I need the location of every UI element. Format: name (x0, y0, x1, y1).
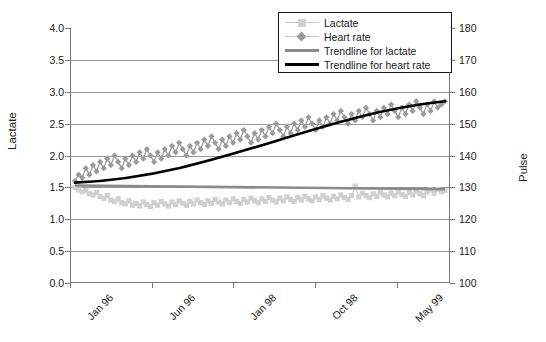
heart-rate-marker (144, 146, 150, 152)
y-axis-left-tick-label: 1.0 (30, 214, 64, 225)
heart-rate-marker (248, 140, 254, 146)
heart-rate-marker (266, 124, 272, 130)
chart-legend: Lactate Heart rate Trendline for lactate… (278, 12, 452, 73)
heart-rate-marker (377, 114, 383, 120)
heart-rate-marker (129, 152, 135, 158)
heart-rate-marker (244, 133, 250, 139)
heart-rate-marker (187, 143, 193, 149)
heart-rate-marker (298, 117, 304, 123)
heart-rate-marker (363, 105, 369, 111)
y-axis-left-tick-label: 3.0 (30, 87, 64, 98)
y-axis-right-tick-label: 110 (459, 246, 493, 257)
heart-rate-marker (388, 101, 394, 107)
heart-rate-marker (395, 114, 401, 120)
legend-item-trendline-lactate: Trendline for lactate (285, 44, 447, 58)
x-axis-tick-mark (397, 283, 398, 288)
heart-rate-marker (126, 162, 132, 168)
heart-rate-marker (309, 121, 315, 127)
y-axis-left-tick-label: 4.0 (30, 23, 64, 34)
y-axis-right-tick-label: 160 (459, 87, 493, 98)
x-axis-tick-label: May 99 (413, 292, 445, 324)
heart-rate-marker (190, 149, 196, 155)
heart-rate-marker (151, 159, 157, 165)
y-axis-right-tick-mark (450, 283, 455, 284)
heart-rate-marker (208, 133, 214, 139)
heart-rate-marker (219, 136, 225, 142)
heart-rate-marker (101, 165, 107, 171)
square-marker-key (285, 17, 319, 29)
heart-rate-marker (428, 108, 434, 114)
heart-rate-marker (147, 152, 153, 158)
heart-rate-marker (252, 130, 258, 136)
heart-rate-marker (269, 130, 275, 136)
legend-label: Lactate (324, 18, 358, 29)
heart-rate-marker (133, 159, 139, 165)
heart-rate-marker (93, 168, 99, 174)
heart-rate-marker (323, 114, 329, 120)
y-axis-right-tick-label: 100 (459, 278, 493, 289)
y-axis-right-tick-label: 180 (459, 23, 493, 34)
heart-rate-marker (226, 133, 232, 139)
heart-rate-marker (402, 111, 408, 117)
black-line-key (285, 59, 319, 71)
y-axis-left-tick-label: 2.5 (30, 119, 64, 130)
y-axis-right-tick-label: 130 (459, 182, 493, 193)
y-axis-left-title: Lactate (6, 112, 18, 150)
heart-rate-marker (183, 152, 189, 158)
heart-rate-marker (255, 136, 261, 142)
heart-rate-marker (262, 133, 268, 139)
heart-rate-marker (119, 165, 125, 171)
heart-rate-marker (349, 111, 355, 117)
legend-item-heart-rate: Heart rate (285, 30, 447, 44)
heart-rate-marker (302, 124, 308, 130)
heart-rate-marker (122, 156, 128, 162)
x-axis-tick-mark (152, 283, 153, 288)
heart-rate-marker (201, 136, 207, 142)
chart-container: Lactate Pulse 4.03.53.02.52.01.51.00.50.… (0, 0, 546, 342)
heart-rate-marker (212, 140, 218, 146)
heart-rate-marker (198, 146, 204, 152)
y-axis-left-tick-label: 2.0 (30, 151, 64, 162)
heart-rate-marker (259, 127, 265, 133)
heart-rate-marker (273, 121, 279, 127)
gray-line-key (285, 45, 319, 57)
legend-item-trendline-heart-rate: Trendline for heart rate (285, 58, 447, 72)
legend-item-lactate: Lactate (285, 16, 447, 30)
heart-rate-marker (230, 140, 236, 146)
y-axis-left-tick-label: 0.5 (30, 246, 64, 257)
diamond-marker-key (285, 31, 319, 43)
heart-rate-marker (137, 149, 143, 155)
heart-rate-marker (241, 127, 247, 133)
heart-rate-marker (180, 146, 186, 152)
heart-rate-marker (158, 156, 164, 162)
heart-rate-marker (155, 149, 161, 155)
heart-rate-marker (90, 162, 96, 168)
x-axis-tick-label: Jan 96 (85, 292, 115, 322)
heart-rate-marker (356, 108, 362, 114)
y-axis-right-title: Pulse (517, 153, 529, 182)
heart-rate-marker (291, 121, 297, 127)
heart-rate-marker (83, 165, 89, 171)
y-axis-left-tick-label: 0.0 (30, 278, 64, 289)
x-axis-tick-label: Jun 96 (167, 292, 197, 322)
heart-rate-marker (194, 140, 200, 146)
heart-rate-marker (420, 111, 426, 117)
heart-rate-marker (234, 130, 240, 136)
heart-rate-marker (97, 159, 103, 165)
heart-rate-marker (205, 143, 211, 149)
legend-label: Trendline for lactate (324, 46, 416, 57)
heart-rate-marker (223, 143, 229, 149)
heart-rate-marker (216, 146, 222, 152)
y-axis-right-tick-label: 140 (459, 151, 493, 162)
lactate-marker (349, 193, 354, 198)
heart-rate-marker (176, 140, 182, 146)
heart-rate-marker (108, 162, 114, 168)
heart-rate-marker (140, 156, 146, 162)
y-axis-left-tick-label: 3.5 (30, 55, 64, 66)
heart-rate-marker (86, 172, 92, 178)
legend-label: Heart rate (324, 32, 371, 43)
heart-rate-marker (169, 143, 175, 149)
y-axis-right-tick-label: 150 (459, 119, 493, 130)
heart-rate-marker (237, 136, 243, 142)
y-axis-left-tick-label: 1.5 (30, 182, 64, 193)
